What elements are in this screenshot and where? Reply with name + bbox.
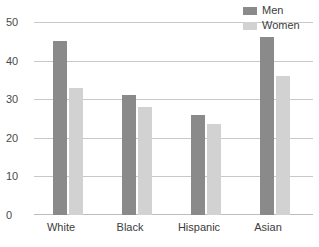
bar-asian-women <box>276 76 290 215</box>
legend-label-men: Men <box>262 5 283 16</box>
y-axis-tick-20: 20 <box>6 132 18 143</box>
legend-item-women: Women <box>243 19 300 32</box>
y-axis-tick-50: 50 <box>6 17 18 28</box>
bar-hispanic-men <box>191 115 205 215</box>
bar-white-women <box>69 88 83 215</box>
bar-white-men <box>53 41 67 215</box>
bar-black-men <box>122 95 136 215</box>
legend-label-women: Women <box>262 20 300 31</box>
legend-item-men: Men <box>243 4 300 17</box>
x-axis-label-asian: Asian <box>254 222 282 233</box>
x-axis-label-white: White <box>47 222 75 233</box>
y-axis-tick-0: 0 <box>6 210 12 221</box>
legend-swatch-men-icon <box>243 7 257 15</box>
x-axis-label-black: Black <box>117 222 144 233</box>
bar-black-women <box>138 107 152 215</box>
y-axis-tick-40: 40 <box>6 55 18 66</box>
y-axis-tick-30: 30 <box>6 94 18 105</box>
plot-area <box>34 22 313 215</box>
x-axis-label-hispanic: Hispanic <box>178 222 220 233</box>
bar-chart: 50 40 30 20 10 0 <box>0 0 319 247</box>
legend: Men Women <box>243 4 300 34</box>
bars-layer <box>34 22 313 215</box>
bar-asian-men <box>260 37 274 215</box>
y-axis-tick-10: 10 <box>6 171 18 182</box>
bar-hispanic-women <box>207 124 221 215</box>
legend-swatch-women-icon <box>243 22 257 30</box>
